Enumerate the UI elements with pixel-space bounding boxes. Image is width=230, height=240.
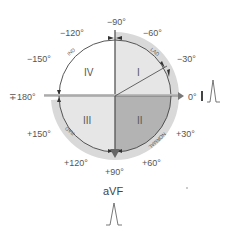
lead-i-arrowhead	[178, 92, 184, 100]
label-pm-180: ∓180°	[9, 92, 36, 102]
lead-i-marker	[201, 91, 203, 101]
lead-i-waveform-icon	[207, 80, 220, 102]
label-minus-120: −120°	[60, 28, 84, 38]
stray-dot	[186, 187, 188, 189]
quadrant-iv-label: IV	[84, 67, 94, 78]
quadrant-iii-label: III	[83, 115, 91, 126]
label-minus-150: −150°	[27, 54, 51, 64]
label-minus-30: −30°	[177, 54, 196, 64]
label-minus-60: −60°	[143, 28, 162, 38]
avf-waveform-icon	[106, 203, 122, 225]
label-zero: 0°	[188, 92, 197, 102]
label-plus-90: +90°	[105, 167, 124, 177]
quadrant-ii-area	[115, 96, 171, 152]
avf-label: aVF	[103, 185, 123, 197]
label-plus-60: +60°	[142, 158, 161, 168]
hexaxial-diagram: −90° −60° −30° 0° +30° +60° +90° +120° +…	[0, 0, 230, 240]
quadrant-ii-label: II	[137, 115, 143, 126]
label-minus-90: −90°	[107, 17, 126, 27]
arc-label-ind: IND	[66, 46, 77, 56]
arrowhead	[108, 36, 114, 40]
quadrant-i-label: I	[137, 67, 140, 78]
label-plus-30: +30°	[176, 129, 195, 139]
label-plus-120: +120°	[64, 158, 88, 168]
quadrant-i-area	[115, 40, 171, 96]
label-plus-150: +150°	[27, 129, 51, 139]
